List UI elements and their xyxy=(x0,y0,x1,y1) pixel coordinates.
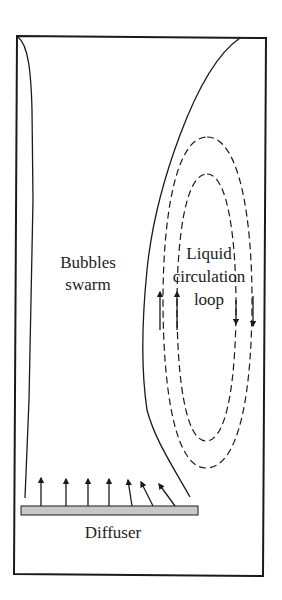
diffuser-label: Diffuser xyxy=(85,523,142,542)
diffuser-bar xyxy=(21,506,198,515)
bubbles-swarm-label-line1: Bubbles xyxy=(60,253,116,272)
liquid-loop-label-line1: Liquid xyxy=(186,244,232,263)
plume-boundary-left xyxy=(18,37,33,498)
diffuser-arrows xyxy=(41,478,175,506)
column-wall xyxy=(14,36,266,576)
liquid-loop-label-line3: loop xyxy=(194,290,224,309)
liquid-loop-label-line2: circulation xyxy=(173,267,246,286)
bubbles-swarm-label-line2: swarm xyxy=(65,275,110,294)
bubble-arrow-icon xyxy=(141,482,153,506)
bubble-arrow-icon xyxy=(159,484,175,506)
downward-flow-arrows xyxy=(236,296,253,326)
bubble-column-diagram: Bubbles swarm Liquid circulation loop Di… xyxy=(0,0,282,600)
bubble-arrow-icon xyxy=(128,480,132,506)
